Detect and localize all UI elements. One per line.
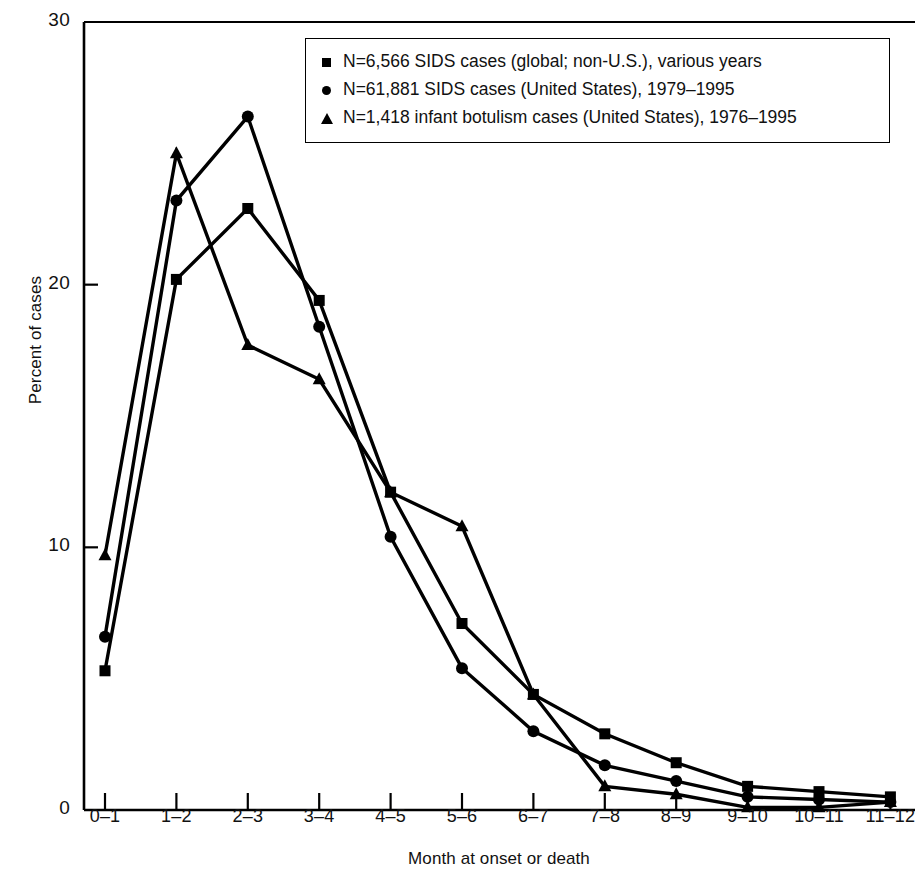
data-point-circle bbox=[527, 725, 539, 737]
x-axis-tick-label: 11–12 bbox=[845, 806, 915, 827]
data-point-square bbox=[242, 203, 253, 214]
data-point-square bbox=[100, 665, 111, 676]
legend-item: N=61,881 SIDS cases (United States), 197… bbox=[320, 76, 885, 104]
legend-item-label: N=1,418 infant botulism cases (United St… bbox=[343, 109, 797, 127]
data-point-circle bbox=[170, 195, 182, 207]
data-point-square bbox=[171, 274, 182, 285]
data-point-square bbox=[314, 295, 325, 306]
legend: N=6,566 SIDS cases (global; non-U.S.), v… bbox=[305, 38, 890, 143]
data-series bbox=[100, 203, 896, 802]
y-axis-tick-label: 30 bbox=[0, 9, 70, 31]
data-point-circle bbox=[242, 111, 254, 123]
data-point-square bbox=[671, 757, 682, 768]
y-axis-tick-label: 20 bbox=[0, 272, 70, 294]
series-line bbox=[105, 208, 890, 796]
legend-item: N=6,566 SIDS cases (global; non-U.S.), v… bbox=[320, 48, 885, 76]
data-series bbox=[99, 111, 896, 809]
data-point-circle bbox=[670, 775, 682, 787]
triangle-marker-icon bbox=[320, 110, 336, 126]
data-point-square bbox=[742, 781, 753, 792]
data-point-circle bbox=[385, 531, 397, 543]
data-point-square bbox=[599, 728, 610, 739]
series-line bbox=[105, 153, 890, 807]
square-marker-icon bbox=[320, 54, 336, 70]
legend-item-label: N=6,566 SIDS cases (global; non-U.S.), v… bbox=[343, 53, 762, 71]
series-line bbox=[105, 117, 890, 803]
data-point-circle bbox=[99, 631, 111, 643]
data-point-square bbox=[457, 618, 468, 629]
chart-figure: Percent of cases Month at onset or death… bbox=[0, 0, 915, 883]
legend-item: N=1,418 infant botulism cases (United St… bbox=[320, 104, 885, 132]
data-series-layer bbox=[99, 111, 897, 813]
legend-item-label: N=61,881 SIDS cases (United States), 197… bbox=[343, 81, 735, 99]
data-point-circle bbox=[313, 321, 325, 333]
circle-marker-icon bbox=[320, 82, 336, 98]
data-point-circle bbox=[456, 662, 468, 674]
data-point-triangle bbox=[241, 338, 254, 350]
data-series bbox=[99, 146, 897, 812]
data-point-circle bbox=[599, 759, 611, 771]
data-point-triangle bbox=[99, 548, 112, 560]
data-point-triangle bbox=[170, 146, 183, 158]
y-axis-tick-label: 10 bbox=[0, 534, 70, 556]
x-axis-title: Month at onset or death bbox=[84, 849, 914, 869]
